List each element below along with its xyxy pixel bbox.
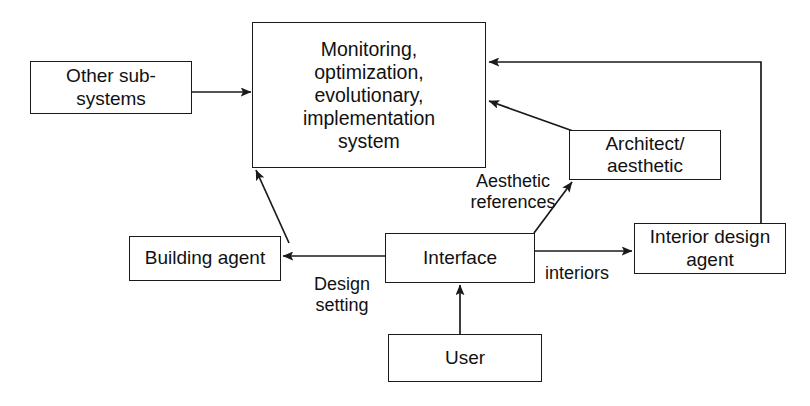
node-user-label: User	[442, 347, 488, 369]
node-interior-design-agent[interactable]: Interior design agent	[634, 223, 786, 274]
edge-label-aesthetic-references: Aesthetic references	[448, 171, 578, 213]
node-other-subsystems-label: Other sub- systems	[63, 65, 159, 110]
node-other-subsystems[interactable]: Other sub- systems	[30, 61, 192, 114]
node-interior-design-agent-label: Interior design agent	[647, 226, 773, 271]
node-architect-aesthetic[interactable]: Architect/ aesthetic	[569, 130, 721, 180]
diagram-canvas: Monitoring, optimization, evolutionary, …	[0, 0, 810, 406]
node-architect-label: Architect/ aesthetic	[602, 133, 687, 178]
node-monitoring-optimization-system[interactable]: Monitoring, optimization, evolutionary, …	[252, 22, 486, 168]
edge-label-interiors: interiors	[545, 263, 637, 284]
edge-building-agent-to-main-system	[256, 170, 289, 243]
node-building-agent[interactable]: Building agent	[129, 236, 281, 281]
node-interface-label: Interface	[420, 247, 500, 269]
edge-label-design-setting: Design setting	[294, 274, 390, 316]
node-interface[interactable]: Interface	[385, 233, 535, 283]
node-building-agent-label: Building agent	[142, 247, 268, 269]
edge-architect-to-main-system	[489, 101, 573, 131]
node-main-system-label: Monitoring, optimization, evolutionary, …	[300, 38, 438, 153]
node-user[interactable]: User	[388, 334, 542, 382]
